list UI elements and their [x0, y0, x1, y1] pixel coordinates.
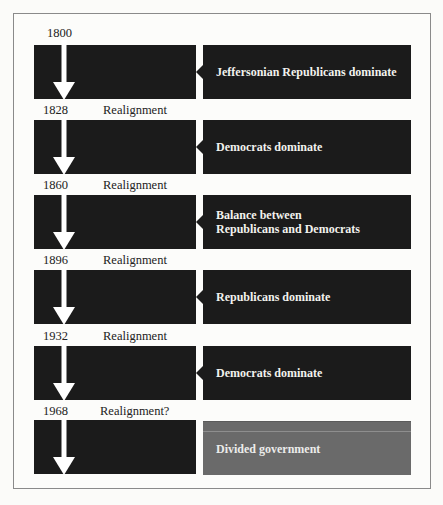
down-arrow-icon [53, 115, 75, 175]
era-event-label: Realignment [103, 103, 167, 117]
chevron-divider [196, 346, 203, 400]
era-description-block: Democrats dominate [203, 120, 411, 174]
down-arrow-icon [53, 341, 75, 401]
era-year: 1800 [47, 26, 72, 40]
chevron-divider [196, 270, 203, 324]
down-arrow-icon [53, 415, 75, 475]
era-event-label: Realignment [103, 329, 167, 343]
chevron-divider [196, 45, 203, 99]
era-description-block: Balance between Republicans and Democrat… [203, 195, 411, 249]
era-description-block: Democrats dominate [203, 346, 411, 400]
down-arrow-icon [53, 40, 75, 100]
era-description-block: Jeffersonian Republicans dominate [203, 45, 411, 99]
era-description: Democrats dominate [216, 140, 322, 154]
down-arrow-icon [53, 190, 75, 250]
era-description: Divided government [216, 442, 320, 456]
era-description: Democrats dominate [216, 366, 322, 380]
cropped-heading [120, 0, 330, 2]
era-description: Balance between Republicans and Democrat… [216, 208, 366, 236]
era-event-label: Realignment [103, 253, 167, 267]
era-event-label: Realignment? [100, 404, 169, 418]
chevron-divider [196, 195, 203, 249]
down-arrow-icon [53, 265, 75, 325]
era-description-block: Republicans dominate [203, 270, 411, 324]
era-description: Jeffersonian Republicans dominate [216, 65, 397, 79]
chevron-divider [196, 120, 203, 174]
era-description: Republicans dominate [216, 290, 330, 304]
era-event-label: Realignment [103, 178, 167, 192]
era-description-block: Divided government [203, 421, 411, 475]
